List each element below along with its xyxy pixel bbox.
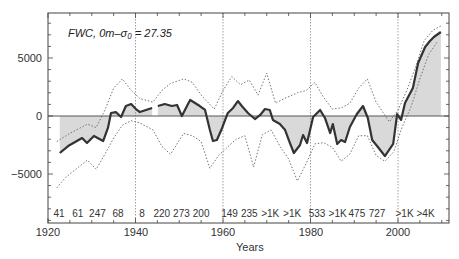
sample-count-label: 68 bbox=[112, 208, 123, 219]
y-tick-5000: 5000 bbox=[2, 52, 42, 64]
sample-count-label: >1K bbox=[283, 208, 301, 219]
x-tick-1980: 1980 bbox=[291, 226, 331, 238]
sample-count-label: >4K bbox=[417, 208, 435, 219]
sample-count-label: 8 bbox=[139, 208, 145, 219]
sample-count-label: 475 bbox=[349, 208, 366, 219]
sample-count-label: 727 bbox=[369, 208, 386, 219]
sample-count-label: 247 bbox=[89, 208, 106, 219]
x-tick-1940: 1940 bbox=[116, 226, 156, 238]
chart-annotation: FWC, 0m–σ₀ = 27.35 bbox=[68, 27, 172, 39]
y-tick-minus-5000: −5000 bbox=[2, 168, 42, 180]
sample-count-label: 61 bbox=[72, 208, 83, 219]
sample-count-label: 533 bbox=[309, 208, 326, 219]
x-axis-label: Years bbox=[236, 241, 264, 253]
sample-count-label: 220 bbox=[153, 208, 170, 219]
sample-count-label: 273 bbox=[173, 208, 190, 219]
sample-count-label: >1K bbox=[396, 208, 414, 219]
x-tick-2000: 2000 bbox=[378, 226, 418, 238]
x-tick-1960: 1960 bbox=[203, 226, 243, 238]
sample-count-label: 149 bbox=[221, 208, 238, 219]
y-tick-0: 0 bbox=[2, 110, 42, 122]
x-tick-1920: 1920 bbox=[28, 226, 68, 238]
sample-count-label: 200 bbox=[193, 208, 210, 219]
sample-count-label: >1K bbox=[329, 208, 347, 219]
sample-count-label: 41 bbox=[53, 208, 64, 219]
sample-count-label: 235 bbox=[241, 208, 258, 219]
sample-count-label: >1K bbox=[261, 208, 279, 219]
